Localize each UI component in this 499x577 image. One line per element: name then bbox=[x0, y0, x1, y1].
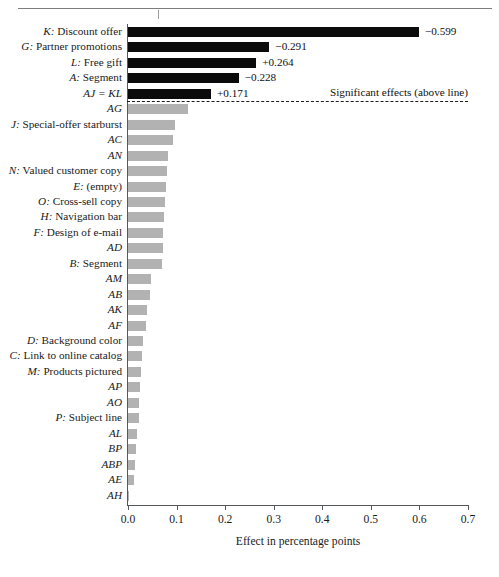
bar bbox=[128, 104, 188, 114]
bar-row: AC bbox=[128, 132, 468, 149]
bar-row-label: AN bbox=[108, 147, 122, 163]
x-tick-label: 0.1 bbox=[169, 513, 184, 526]
bar bbox=[128, 182, 166, 192]
x-tick-label: 0.5 bbox=[364, 513, 379, 526]
bar bbox=[128, 228, 163, 238]
bar-row: AO bbox=[128, 395, 468, 412]
bar bbox=[128, 135, 173, 145]
bar bbox=[128, 73, 239, 83]
x-tick-label: 0.2 bbox=[218, 513, 233, 526]
x-tick bbox=[419, 505, 420, 510]
bar-row: AD bbox=[128, 240, 468, 257]
bar-row: M: Products pictured bbox=[128, 364, 468, 381]
bar bbox=[128, 321, 146, 331]
bar-row-label: F: Design of e-mail bbox=[33, 224, 122, 240]
bar-value-label: +0.264 bbox=[262, 54, 293, 70]
bar bbox=[128, 120, 175, 130]
bar bbox=[128, 197, 165, 207]
bar bbox=[128, 58, 256, 68]
bar bbox=[128, 336, 143, 346]
bar-row: AH bbox=[128, 488, 468, 505]
bar-row: AK bbox=[128, 302, 468, 319]
bar-row-label: AJ = KL bbox=[83, 85, 122, 101]
bar-row-label: N: Valued customer copy bbox=[9, 162, 122, 178]
x-tick bbox=[468, 505, 469, 510]
bar-row: O: Cross-sell copy bbox=[128, 194, 468, 211]
bar-row: H: Navigation bar bbox=[128, 209, 468, 226]
bar bbox=[128, 151, 168, 161]
bar-row-label: AP bbox=[108, 378, 122, 394]
bar-row-label: J: Special-offer starburst bbox=[11, 116, 122, 132]
bar-row-label: AL bbox=[109, 425, 122, 441]
bar-row-label: E: (empty) bbox=[73, 178, 122, 194]
bar bbox=[128, 460, 135, 470]
bar-row-label: O: Cross-sell copy bbox=[38, 193, 122, 209]
x-tick-label: 0.6 bbox=[412, 513, 427, 526]
x-tick-label: 0.7 bbox=[461, 513, 476, 526]
x-tick bbox=[128, 505, 129, 510]
x-tick bbox=[371, 505, 372, 510]
bar-row-label: K: Discount offer bbox=[43, 23, 122, 39]
bar bbox=[128, 212, 164, 222]
bar-row: ABP bbox=[128, 457, 468, 474]
bar-row-label: H: Navigation bar bbox=[41, 208, 122, 224]
bar-row-label: G: Partner promotions bbox=[21, 38, 122, 54]
bar-row-label: A: Segment bbox=[69, 69, 122, 85]
bar-row-label: ABP bbox=[101, 456, 122, 472]
bar bbox=[128, 382, 140, 392]
bar-row: C: Link to online catalog bbox=[128, 348, 468, 365]
x-tick-label: 0.3 bbox=[266, 513, 281, 526]
bar-row-label: L: Free gift bbox=[71, 54, 122, 70]
significance-divider-line bbox=[127, 101, 468, 102]
bar-row-label: AH bbox=[107, 487, 122, 503]
bar-value-label: −0.228 bbox=[245, 69, 276, 85]
bar-value-label: −0.291 bbox=[275, 38, 306, 54]
bar-row-label: AE bbox=[108, 471, 122, 487]
significance-annotation: Significant effects (above line) bbox=[128, 86, 468, 98]
bar-row: AB bbox=[128, 287, 468, 304]
bar-row: P: Subject line bbox=[128, 410, 468, 427]
bar-row-label: AB bbox=[108, 286, 122, 302]
x-tick-label: 0.4 bbox=[315, 513, 330, 526]
bar bbox=[128, 290, 150, 300]
bar-row: AN bbox=[128, 148, 468, 165]
bar-row-label: P: Subject line bbox=[56, 409, 123, 425]
bar-row-label: BP bbox=[108, 440, 122, 456]
bar-row: D: Background color bbox=[128, 333, 468, 350]
bar-row: BP bbox=[128, 441, 468, 458]
bar-row-label: AC bbox=[108, 131, 122, 147]
bar-row-label: AM bbox=[106, 270, 122, 286]
bar bbox=[128, 27, 419, 37]
bar-row: AP bbox=[128, 379, 468, 396]
bar-row: AG bbox=[128, 101, 468, 118]
x-tick bbox=[177, 505, 178, 510]
x-tick bbox=[322, 505, 323, 510]
x-axis-line bbox=[127, 505, 469, 506]
bar bbox=[128, 475, 134, 485]
bar bbox=[128, 367, 141, 377]
bar-row-label: B: Segment bbox=[69, 255, 122, 271]
bar bbox=[128, 491, 129, 501]
bar bbox=[128, 305, 147, 315]
x-tick-label: 0.0 bbox=[121, 513, 136, 526]
bar bbox=[128, 351, 142, 361]
bar-row: G: Partner promotions−0.291 bbox=[128, 39, 468, 56]
bar bbox=[128, 274, 151, 284]
bar-row: B: Segment bbox=[128, 256, 468, 273]
x-tick bbox=[274, 505, 275, 510]
bar bbox=[128, 429, 137, 439]
pareto-chart-figure: K: Discount offer−0.599G: Partner promot… bbox=[0, 0, 499, 577]
bar bbox=[128, 398, 139, 408]
bar-row: AM bbox=[128, 271, 468, 288]
bar-row: N: Valued customer copy bbox=[128, 163, 468, 180]
bar-row: AL bbox=[128, 426, 468, 443]
bar bbox=[128, 42, 269, 52]
bar-row: F: Design of e-mail bbox=[128, 225, 468, 242]
bar-row-label: AD bbox=[107, 239, 122, 255]
bar-row-label: M: Products pictured bbox=[28, 363, 122, 379]
bar-row-label: C: Link to online catalog bbox=[10, 347, 122, 363]
bar-row: L: Free gift+0.264 bbox=[128, 55, 468, 72]
bar-value-label: −0.599 bbox=[425, 23, 456, 39]
bar-row: E: (empty) bbox=[128, 179, 468, 196]
plot-area: K: Discount offer−0.599G: Partner promot… bbox=[128, 24, 468, 503]
